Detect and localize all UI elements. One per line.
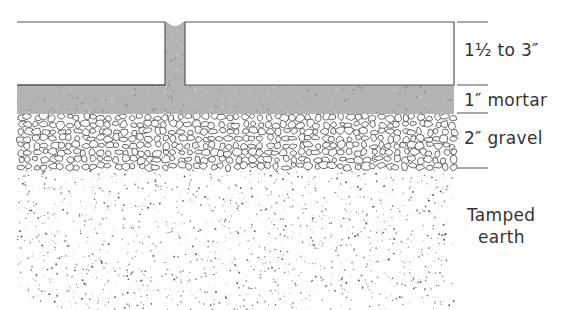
brick-right <box>185 22 454 85</box>
brick-thickness-label: 1½ to 3″ <box>464 40 539 60</box>
earth-label-line2: earth <box>478 227 525 247</box>
brick-left <box>17 22 165 85</box>
earth-label-line1: Tamped <box>467 205 535 225</box>
gravel-layer <box>16 112 458 172</box>
mortar-label: 1″ mortar <box>464 90 547 110</box>
gravel-label: 2″ gravel <box>464 128 543 148</box>
tamped-earth-layer <box>17 169 455 310</box>
